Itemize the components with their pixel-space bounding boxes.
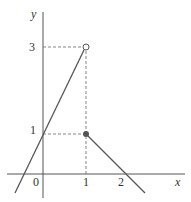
x-tick-1: 1 xyxy=(83,175,89,189)
y-axis-label: y xyxy=(30,7,37,21)
right-piece-line xyxy=(86,134,145,193)
y-tick-3: 3 xyxy=(29,40,35,54)
x-tick-2: 2 xyxy=(118,175,124,189)
x-axis-label: x xyxy=(174,175,181,189)
filled-endpoint xyxy=(83,131,89,137)
y-tick-1: 1 xyxy=(30,123,36,137)
origin-label: 0 xyxy=(33,175,39,189)
piecewise-function-graph: y 3 1 0 1 2 x xyxy=(0,0,191,202)
open-endpoint xyxy=(83,44,89,50)
left-piece-line xyxy=(15,50,84,193)
